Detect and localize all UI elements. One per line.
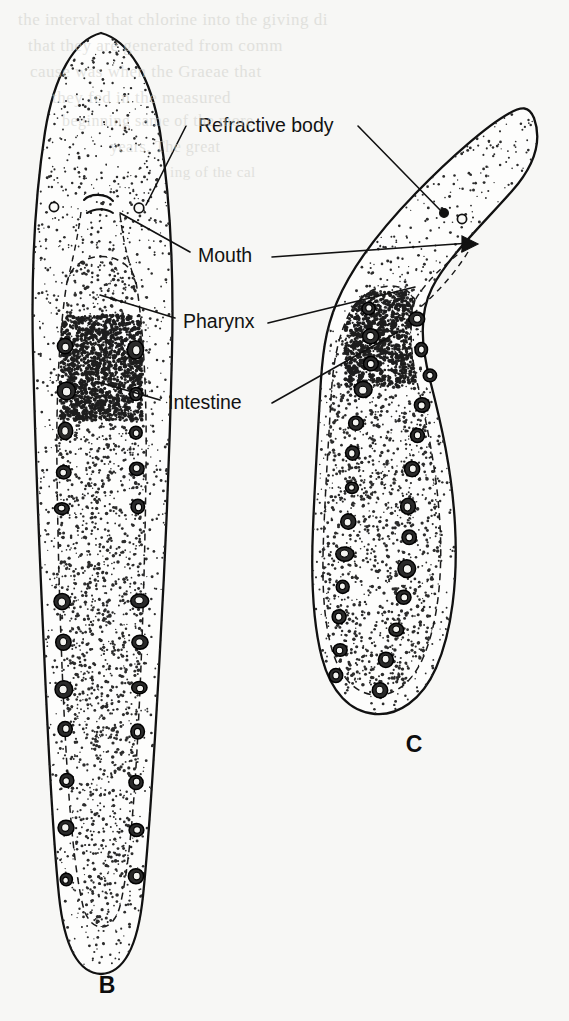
stipple-dot	[516, 413, 518, 415]
intestinal-granule	[74, 343, 76, 345]
stipple-dot	[29, 232, 31, 234]
intestinal-granule	[86, 409, 89, 412]
stipple-dot	[329, 487, 330, 488]
stipple-dot	[32, 222, 33, 223]
stipple-dot	[410, 127, 412, 129]
stipple-dot	[454, 136, 457, 139]
stipple-dot	[467, 329, 469, 331]
stipple-dot	[395, 410, 397, 412]
stipple-dot	[381, 478, 383, 480]
stipple-dot	[143, 192, 145, 194]
stipple-dot	[388, 578, 390, 580]
stipple-dot	[519, 505, 521, 507]
stipple-dot	[34, 246, 36, 248]
stipple-dot	[103, 426, 105, 428]
stipple-dot	[45, 950, 47, 952]
stipple-dot	[539, 232, 542, 235]
stipple-dot	[172, 429, 175, 432]
stipple-dot	[107, 289, 110, 292]
stipple-dot	[69, 517, 71, 519]
stipple-dot	[95, 491, 97, 493]
stipple-dot	[31, 909, 33, 911]
stipple-dot	[399, 281, 400, 282]
stipple-dot	[312, 405, 315, 408]
stipple-dot	[333, 535, 336, 538]
intestinal-granule	[125, 331, 128, 334]
stipple-dot	[440, 621, 442, 623]
stipple-dot	[85, 903, 88, 906]
stipple-dot	[440, 309, 443, 312]
stipple-dot	[61, 617, 64, 620]
intestinal-granule	[118, 416, 121, 419]
stipple-dot	[37, 149, 40, 152]
stipple-dot	[485, 675, 488, 678]
stipple-dot	[163, 972, 165, 974]
stipple-dot	[497, 201, 498, 202]
stipple-dot	[141, 228, 143, 230]
stipple-dot	[372, 538, 375, 541]
stipple-dot	[84, 148, 86, 150]
stipple-dot	[122, 763, 124, 765]
stipple-dot	[88, 875, 92, 879]
stipple-dot	[422, 649, 425, 652]
stipple-dot	[430, 586, 433, 589]
stipple-dot	[76, 552, 77, 553]
stipple-dot	[153, 933, 155, 935]
stipple-dot	[97, 303, 99, 305]
stipple-dot	[427, 206, 430, 209]
stipple-dot	[58, 528, 60, 530]
stipple-dot	[156, 517, 159, 520]
stipple-dot	[73, 226, 75, 228]
stipple-dot	[429, 462, 432, 465]
intestinal-granule	[114, 323, 117, 326]
stipple-dot	[435, 361, 438, 364]
stipple-dot	[468, 462, 470, 464]
intestinal-granule	[134, 417, 138, 421]
stipple-dot	[361, 447, 363, 449]
stipple-dot	[355, 627, 357, 629]
stipple-dot	[416, 690, 419, 693]
stipple-dot	[324, 287, 327, 290]
stipple-dot	[363, 482, 365, 484]
stipple-dot	[428, 119, 430, 121]
stipple-dot	[91, 495, 94, 498]
stipple-dot	[354, 399, 358, 403]
intestinal-granule	[117, 390, 120, 393]
stipple-dot	[450, 699, 452, 701]
stipple-dot	[75, 600, 77, 602]
stipple-dot	[95, 298, 98, 301]
stipple-dot	[84, 631, 87, 634]
stipple-dot	[76, 642, 78, 644]
stipple-dot	[311, 625, 313, 627]
intestinal-granule	[100, 362, 102, 364]
stipple-dot	[121, 527, 124, 530]
stipple-dot	[123, 243, 125, 245]
intestinal-granule	[404, 374, 406, 376]
stipple-dot	[31, 441, 34, 444]
intestinal-granule	[107, 413, 110, 416]
stipple-dot	[485, 197, 487, 199]
stipple-dot	[139, 239, 141, 241]
intestinal-nucleus	[131, 724, 145, 739]
stipple-dot	[123, 769, 126, 772]
stipple-dot	[413, 387, 417, 391]
stipple-dot	[491, 653, 492, 654]
stipple-dot	[308, 450, 309, 451]
stipple-dot	[535, 311, 537, 313]
stipple-dot	[123, 257, 126, 260]
stipple-dot	[453, 648, 455, 650]
stipple-dot	[451, 286, 454, 289]
stipple-dot	[438, 227, 440, 229]
stipple-dot	[35, 649, 38, 652]
stipple-dot	[474, 709, 477, 712]
stipple-dot	[41, 107, 44, 110]
stipple-dot	[140, 485, 142, 487]
intestinal-granule	[383, 323, 387, 327]
stipple-dot	[128, 818, 130, 820]
stipple-dot	[434, 318, 436, 320]
stipple-dot	[397, 662, 399, 664]
intestinal-granule	[379, 383, 381, 385]
stipple-dot	[326, 402, 328, 404]
stipple-dot	[84, 192, 86, 194]
stipple-dot	[100, 517, 103, 520]
